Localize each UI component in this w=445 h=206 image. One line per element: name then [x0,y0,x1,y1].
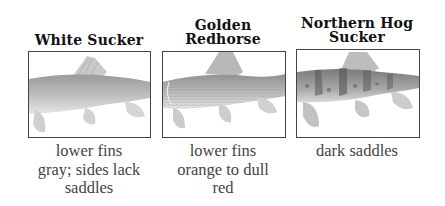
fish-name: Northern Hog Sucker [290,16,424,44]
fish-name-line: Redhorse [156,32,290,46]
fish-name-line: Northern Hog [290,16,424,30]
fish-name: White Sucker [22,33,156,47]
fish-name-line: Sucker [290,30,424,44]
caption-line: dark saddles [290,142,424,161]
caption-line: red [156,179,290,198]
fish-caption: lower fins orange to dull red [156,142,290,198]
fish-card-white-sucker: White Sucker lower fins gray [22,0,156,206]
caption-line: lower fins [156,142,290,161]
caption-line: gray; sides lack [22,161,156,180]
fish-card-northern-hog-sucker: Northern Hog Sucker [290,0,424,206]
caption-line: lower fins [22,142,156,161]
caption-line: saddles [22,179,156,198]
caption-line: orange to dull [156,161,290,180]
northern-hog-sucker-illustration [296,49,420,138]
fish-card-golden-redhorse: Golden Redhorse [156,0,290,206]
white-sucker-illustration [28,51,151,138]
fish-caption: dark saddles [290,142,424,161]
fish-name: Golden Redhorse [156,18,290,46]
golden-redhorse-illustration [162,51,286,138]
fish-caption: lower fins gray; sides lack saddles [22,142,156,198]
fish-name-line: White Sucker [35,32,144,48]
fish-name-line: Golden [156,18,290,32]
